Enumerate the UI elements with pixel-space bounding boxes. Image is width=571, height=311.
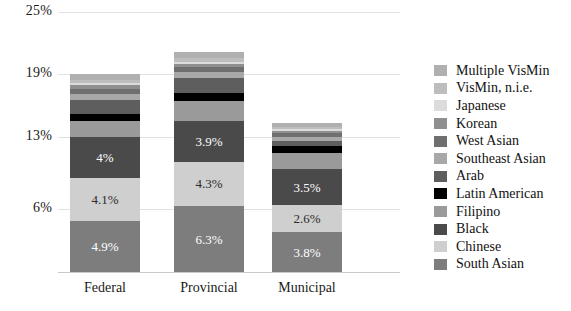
legend-item-label: Japanese: [456, 99, 506, 113]
bar-segment: [272, 146, 342, 153]
bar-segment: 3.5%: [272, 169, 342, 205]
legend-item[interactable]: Arab: [434, 168, 571, 186]
bar-segment: [174, 72, 244, 78]
legend-item[interactable]: Japanese: [434, 97, 571, 115]
bar-segment: [272, 123, 342, 127]
legend-item[interactable]: South Asian: [434, 256, 571, 274]
legend-swatch-icon: [434, 224, 447, 235]
legend-item-label: Latin American: [456, 187, 543, 201]
x-axis-tick-label: Municipal: [247, 280, 367, 296]
legend-swatch-icon: [434, 188, 447, 199]
legend-swatch-icon: [434, 100, 447, 111]
legend-item-label: Arab: [456, 169, 484, 183]
legend-item[interactable]: Black: [434, 220, 571, 238]
bar-segment: [70, 121, 140, 137]
legend-swatch-icon: [434, 83, 447, 94]
bar-segment: [174, 101, 244, 121]
legend-item[interactable]: Filipino: [434, 203, 571, 221]
bar-segment: [272, 131, 342, 133]
legend-item[interactable]: Multiple VisMin: [434, 62, 571, 80]
bar-segment: [70, 83, 140, 85]
bar-segment: [70, 89, 140, 94]
bar-federal: 4.9%4.1%4%: [70, 0, 140, 311]
bar-segment: [272, 127, 342, 129]
bar-segment: [174, 62, 244, 64]
legend-swatch-icon: [434, 259, 447, 270]
legend-item-label: Korean: [456, 117, 497, 131]
legend-swatch-icon: [434, 118, 447, 129]
legend-swatch-icon: [434, 171, 447, 182]
bar-segment: [174, 58, 244, 61]
bar-segment: [70, 114, 140, 121]
legend-item[interactable]: Chinese: [434, 238, 571, 256]
bar-segment: [272, 133, 342, 136]
y-axis-tick-label: 19%: [26, 65, 52, 81]
segment-value-label: 6.3%: [195, 233, 222, 246]
chart-root: 25%19%13%6%4.9%4.1%4%Federal6.3%4.3%3.9%…: [0, 0, 571, 311]
bar-segment: 3.9%: [174, 121, 244, 162]
legend-item-label: South Asian: [456, 257, 524, 271]
legend-item[interactable]: Latin American: [434, 185, 571, 203]
bar-segment: 4.1%: [70, 178, 140, 221]
bar-municipal: 3.8%2.6%3.5%: [272, 0, 342, 311]
legend-item-label: Multiple VisMin: [456, 64, 549, 78]
legend-item-label: VisMin, n.i.e.: [456, 81, 533, 95]
segment-value-label: 3.5%: [293, 181, 320, 194]
legend-swatch-icon: [434, 136, 447, 147]
y-axis-tick-label: 6%: [33, 200, 52, 216]
bar-segment: 6.3%: [174, 206, 244, 272]
legend-swatch-icon: [434, 153, 447, 164]
bar-segment: [272, 141, 342, 146]
segment-value-label: 4.1%: [91, 193, 118, 206]
legend-item-label: Filipino: [456, 205, 500, 219]
bar-segment: [272, 153, 342, 169]
segment-value-label: 4.9%: [91, 240, 118, 253]
legend-swatch-icon: [434, 65, 447, 76]
bar-segment: [70, 80, 140, 83]
legend-item[interactable]: Southeast Asian: [434, 150, 571, 168]
chart-legend: Multiple VisMinVisMin, n.i.e.JapaneseKor…: [434, 62, 571, 273]
segment-value-label: 3.8%: [293, 246, 320, 259]
bar-segment: [70, 74, 140, 80]
x-axis-tick-label: Federal: [45, 280, 165, 296]
bar-segment: 2.6%: [272, 205, 342, 232]
segment-value-label: 3.9%: [195, 135, 222, 148]
bar-segment: 3.8%: [272, 232, 342, 272]
bar-segment: [174, 52, 244, 58]
bar-segment: 4.3%: [174, 162, 244, 207]
y-axis-tick-label: 13%: [26, 128, 52, 144]
bar-segment: [272, 129, 342, 131]
bar-segment: [70, 94, 140, 100]
y-axis-tick-label: 25%: [26, 3, 52, 19]
legend-item-label: Chinese: [456, 240, 501, 254]
bar-segment: 4%: [70, 137, 140, 179]
legend-item-label: West Asian: [456, 134, 519, 148]
segment-value-label: 4.3%: [195, 177, 222, 190]
bar-segment: 4.9%: [70, 221, 140, 272]
segment-value-label: 4%: [96, 151, 113, 164]
bar-segment: [272, 137, 342, 141]
bar-segment: [174, 78, 244, 93]
bar-segment: [70, 85, 140, 88]
legend-item[interactable]: Korean: [434, 115, 571, 133]
bar-segment: [174, 64, 244, 67]
bar-provincial: 6.3%4.3%3.9%: [174, 0, 244, 311]
bar-segment: [174, 67, 244, 72]
legend-swatch-icon: [434, 241, 447, 252]
legend-item[interactable]: VisMin, n.i.e.: [434, 80, 571, 98]
legend-swatch-icon: [434, 206, 447, 217]
plot-area: 25%19%13%6%4.9%4.1%4%Federal6.3%4.3%3.9%…: [0, 0, 400, 311]
legend-item[interactable]: West Asian: [434, 132, 571, 150]
segment-value-label: 2.6%: [293, 212, 320, 225]
bar-segment: [70, 100, 140, 114]
legend-item-label: Black: [456, 222, 489, 236]
legend-item-label: Southeast Asian: [456, 152, 546, 166]
bar-segment: [174, 93, 244, 101]
